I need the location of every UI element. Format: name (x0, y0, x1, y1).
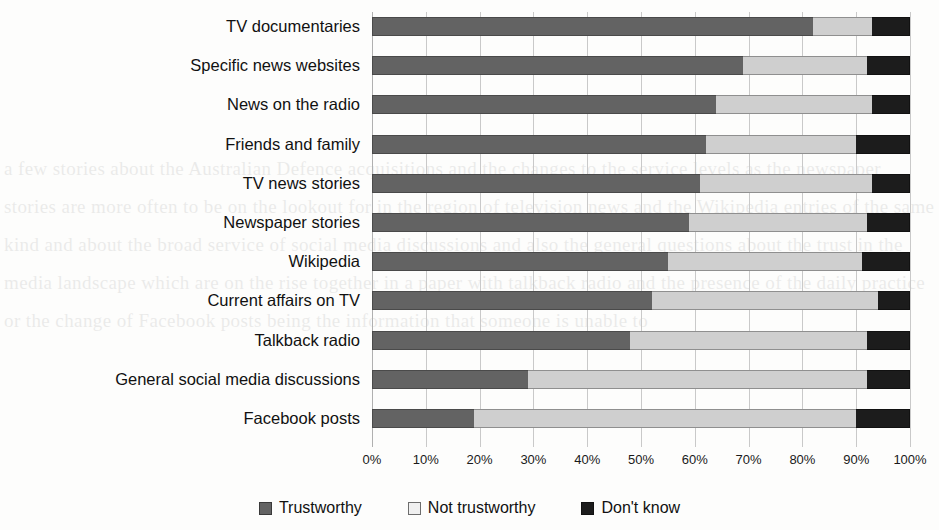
bar-segment-don-t-know[interactable] (878, 291, 910, 310)
bar-segment-not-trustworthy[interactable] (706, 135, 857, 154)
legend-label: Not trustworthy (428, 499, 536, 517)
bar-segment-don-t-know[interactable] (856, 135, 910, 154)
category-label: Wikipedia (0, 252, 360, 271)
category-label: Newspaper stories (0, 213, 360, 232)
chart-legend: TrustworthyNot trustworthyDon't know (0, 499, 939, 517)
x-tick-label: 80% (789, 452, 815, 468)
category-axis-labels: TV documentariesSpecific news websitesNe… (0, 12, 360, 447)
bar-segment-not-trustworthy[interactable] (528, 370, 867, 389)
gridline (910, 12, 911, 447)
table-row[interactable] (372, 135, 910, 154)
table-row[interactable] (372, 174, 910, 193)
legend-swatch-icon (259, 502, 272, 515)
bar-segment-trustworthy[interactable] (372, 56, 743, 75)
bar-segment-not-trustworthy[interactable] (716, 95, 872, 114)
bar-segment-trustworthy[interactable] (372, 135, 706, 154)
bar-segment-not-trustworthy[interactable] (474, 409, 856, 428)
table-row[interactable] (372, 56, 910, 75)
table-row[interactable] (372, 291, 910, 310)
bar-segment-not-trustworthy[interactable] (813, 17, 872, 36)
bar-segment-don-t-know[interactable] (867, 370, 910, 389)
legend-swatch-icon (581, 502, 594, 515)
category-label: TV news stories (0, 174, 360, 193)
bar-segment-trustworthy[interactable] (372, 17, 813, 36)
category-label: Talkback radio (0, 331, 360, 350)
x-tick-label: 20% (467, 452, 493, 468)
bar-segment-trustworthy[interactable] (372, 370, 528, 389)
bar-segment-not-trustworthy[interactable] (700, 174, 872, 193)
bar-segment-don-t-know[interactable] (867, 213, 910, 232)
bar-segment-trustworthy[interactable] (372, 213, 689, 232)
x-tick-label: 60% (682, 452, 708, 468)
bar-segment-trustworthy[interactable] (372, 95, 716, 114)
bar-segment-not-trustworthy[interactable] (652, 291, 878, 310)
legend-swatch-icon (408, 502, 421, 515)
table-row[interactable] (372, 331, 910, 350)
x-tick-label: 0% (363, 452, 382, 468)
plot-area (372, 12, 910, 447)
bar-segment-don-t-know[interactable] (867, 56, 910, 75)
legend-item[interactable]: Trustworthy (259, 499, 362, 517)
bar-segment-don-t-know[interactable] (856, 409, 910, 428)
category-label: News on the radio (0, 95, 360, 114)
legend-item[interactable]: Don't know (581, 499, 680, 517)
x-axis-tick-labels: 0%10%20%30%40%50%60%70%80%90%100% (372, 452, 910, 472)
category-label: Specific news websites (0, 56, 360, 75)
x-tick-label: 40% (574, 452, 600, 468)
bar-segment-not-trustworthy[interactable] (630, 331, 867, 350)
bar-segment-not-trustworthy[interactable] (668, 252, 862, 271)
bar-segment-trustworthy[interactable] (372, 409, 474, 428)
legend-label: Trustworthy (279, 499, 362, 517)
bar-segment-don-t-know[interactable] (872, 174, 910, 193)
legend-item[interactable]: Not trustworthy (408, 499, 536, 517)
bar-segment-don-t-know[interactable] (872, 17, 910, 36)
legend-label: Don't know (601, 499, 680, 517)
table-row[interactable] (372, 17, 910, 36)
x-tick-label: 50% (628, 452, 654, 468)
bar-segment-not-trustworthy[interactable] (743, 56, 867, 75)
table-row[interactable] (372, 252, 910, 271)
bar-segment-trustworthy[interactable] (372, 331, 630, 350)
bar-segment-don-t-know[interactable] (872, 95, 910, 114)
table-row[interactable] (372, 95, 910, 114)
category-label: TV documentaries (0, 17, 360, 36)
bar-segment-trustworthy[interactable] (372, 174, 700, 193)
x-tick-label: 70% (736, 452, 762, 468)
bar-rows (372, 12, 910, 447)
table-row[interactable] (372, 213, 910, 232)
x-tick-label: 10% (413, 452, 439, 468)
category-label: General social media discussions (0, 370, 360, 389)
x-tick-label: 90% (843, 452, 869, 468)
table-row[interactable] (372, 409, 910, 428)
category-label: Current affairs on TV (0, 291, 360, 310)
bar-segment-not-trustworthy[interactable] (689, 213, 867, 232)
x-tick-label: 30% (520, 452, 546, 468)
bar-segment-don-t-know[interactable] (867, 331, 910, 350)
category-label: Facebook posts (0, 409, 360, 428)
category-label: Friends and family (0, 135, 360, 154)
table-row[interactable] (372, 370, 910, 389)
stacked-bar-chart: TV documentariesSpecific news websitesNe… (0, 0, 939, 530)
bar-segment-don-t-know[interactable] (862, 252, 910, 271)
bar-segment-trustworthy[interactable] (372, 252, 668, 271)
bar-segment-trustworthy[interactable] (372, 291, 652, 310)
x-tick-label: 100% (893, 452, 926, 468)
